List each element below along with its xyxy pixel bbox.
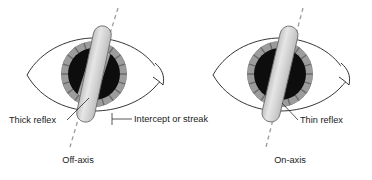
eye-diagram-off-axis: Thick reflex Intercept or streak Off-axi… — [9, 8, 208, 165]
label-thin-reflex: Thin reflex — [300, 115, 343, 125]
caption-on-axis: On-axis — [274, 155, 306, 165]
eye-diagram-on-axis: Thin reflex On-axis — [213, 8, 350, 165]
label-intercept-or-streak: Intercept or streak — [134, 114, 208, 124]
retinoscopy-figure: Thick reflex Intercept or streak Off-axi… — [0, 0, 372, 180]
label-thick-reflex: Thick reflex — [9, 115, 56, 125]
figure-canvas: Thick reflex Intercept or streak Off-axi… — [0, 0, 372, 180]
caption-off-axis: Off-axis — [62, 155, 94, 165]
